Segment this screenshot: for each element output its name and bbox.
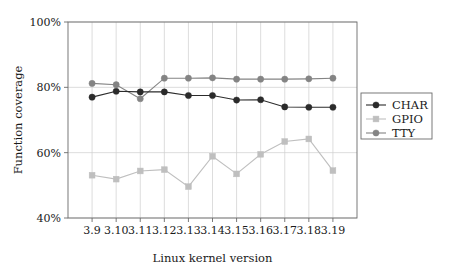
- data-point-marker: [89, 80, 95, 86]
- y-tick-label: 40%: [37, 212, 61, 225]
- data-point-marker: [137, 89, 143, 95]
- x-tick-label: 3.17: [273, 224, 298, 237]
- y-tick-label: 60%: [37, 147, 61, 160]
- data-point-marker: [113, 88, 119, 94]
- data-point-marker: [209, 92, 215, 98]
- chart-figure: 40%60%80%100% 3.93.103.113.123.133.143.1…: [0, 0, 449, 272]
- data-point-marker: [89, 94, 95, 100]
- data-point-marker: [306, 104, 312, 110]
- data-point-marker: [210, 153, 216, 159]
- data-point-marker: [209, 75, 215, 81]
- data-point-marker: [233, 97, 239, 103]
- gridlines: [68, 22, 357, 218]
- data-point-marker: [185, 92, 191, 98]
- x-tick-label: 3.18: [297, 224, 322, 237]
- data-point-marker: [89, 172, 95, 178]
- data-point-marker: [186, 184, 192, 190]
- data-point-marker: [330, 75, 336, 81]
- data-point-marker: [330, 104, 336, 110]
- legend-label: TTY: [392, 126, 416, 140]
- x-axis-title: Linux kernel version: [153, 251, 273, 265]
- x-axis-ticks: 3.93.103.113.123.133.143.153.163.173.183…: [83, 218, 345, 237]
- y-tick-label: 80%: [37, 81, 61, 94]
- data-point-marker: [233, 76, 239, 82]
- x-tick-label: 3.13: [176, 224, 201, 237]
- data-point-marker: [137, 96, 143, 102]
- data-point-marker: [113, 176, 119, 182]
- data-point-marker: [137, 168, 143, 174]
- x-tick-label: 3.12: [152, 224, 177, 237]
- data-point-marker: [282, 139, 288, 145]
- x-tick-label: 3.14: [200, 224, 225, 237]
- data-point-marker: [306, 136, 312, 142]
- data-point-marker: [161, 75, 167, 81]
- data-point-marker: [258, 151, 264, 157]
- y-axis-title: Function coverage: [11, 65, 25, 174]
- data-point-marker: [234, 171, 240, 177]
- chart-legend: CHARGPIOTTY: [361, 93, 432, 140]
- legend-marker: [373, 130, 379, 136]
- legend-label: CHAR: [392, 98, 428, 112]
- data-point-marker: [258, 76, 264, 82]
- x-tick-label: 3.16: [248, 224, 273, 237]
- x-tick-label: 3.15: [224, 224, 249, 237]
- x-tick-label: 3.19: [321, 224, 346, 237]
- data-point-marker: [282, 104, 288, 110]
- line-chart: 40%60%80%100% 3.93.103.113.123.133.143.1…: [0, 0, 449, 272]
- x-tick-label: 3.10: [104, 224, 129, 237]
- data-point-marker: [161, 89, 167, 95]
- data-point-marker: [113, 82, 119, 88]
- legend-marker: [373, 102, 379, 108]
- data-point-marker: [161, 167, 167, 173]
- data-point-marker: [306, 76, 312, 82]
- y-axis-ticks: 40%60%80%100%: [30, 16, 68, 225]
- y-tick-label: 100%: [30, 16, 61, 29]
- x-tick-label: 3.11: [128, 224, 153, 237]
- data-point-marker: [258, 97, 264, 103]
- data-point-marker: [282, 76, 288, 82]
- legend-label: GPIO: [392, 112, 423, 126]
- x-tick-label: 3.9: [83, 224, 101, 237]
- data-point-marker: [330, 168, 336, 174]
- legend-marker: [373, 116, 379, 122]
- data-point-marker: [185, 75, 191, 81]
